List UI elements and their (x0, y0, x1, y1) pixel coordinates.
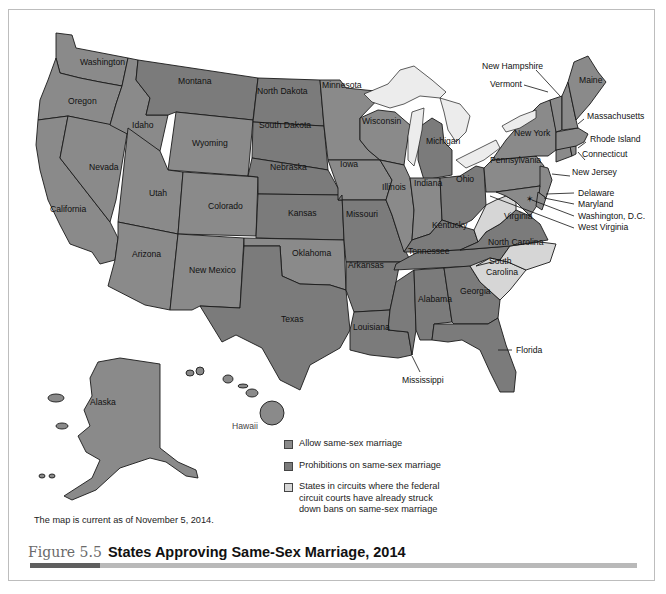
state-arizona (108, 222, 178, 310)
lake-superior (364, 66, 446, 108)
label-alabama: Alabama (418, 294, 452, 304)
state-florida (432, 318, 516, 392)
label-south-carolina-line1: South (489, 256, 512, 266)
swatch-prohibit-icon (284, 462, 293, 471)
alaska-island (39, 474, 45, 478)
label-connecticut: Connecticut (582, 149, 628, 159)
hawaii-island (260, 401, 284, 425)
legend-label-allow: Allow same-sex marriage (299, 438, 402, 450)
label-michigan: Michigan (426, 136, 461, 146)
state-alaska (64, 358, 198, 500)
leader-massachusetts (578, 119, 584, 124)
label-north-carolina: North Carolina (488, 237, 544, 247)
alaska-island (48, 394, 64, 402)
label-hawaii: Hawaii (232, 421, 258, 431)
legend-item-prohibit: Prohibitions on same-sex marriage (284, 460, 504, 472)
label-dc: Washington, D.C. (578, 211, 645, 221)
label-pennsylvania: Pennsylvania (490, 155, 541, 165)
label-new-york: New York (514, 128, 551, 138)
swatch-circuit-icon (284, 483, 293, 492)
label-south-dakota: South Dakota (259, 120, 311, 130)
state-massachusetts (556, 128, 588, 150)
label-alaska: Alaska (90, 397, 116, 407)
label-wyoming: Wyoming (192, 138, 228, 148)
leader-new-hampshire (536, 70, 560, 96)
label-new-mexico: New Mexico (189, 265, 236, 275)
label-colorado: Colorado (208, 201, 243, 211)
caption-rule-accent (30, 563, 100, 568)
label-louisiana: Louisiana (353, 322, 390, 332)
label-south-carolina-line2: Carolina (486, 267, 518, 277)
label-massachusetts: Massachusetts (587, 111, 644, 121)
label-indiana: Indiana (414, 178, 442, 188)
leader-vermont (524, 85, 548, 92)
label-kansas: Kansas (288, 208, 317, 218)
leader-delaware (546, 193, 574, 194)
label-idaho: Idaho (132, 120, 154, 130)
label-north-dakota: North Dakota (257, 86, 308, 96)
legend-item-allow: Allow same-sex marriage (284, 438, 504, 450)
figure-title: States Approving Same-Sex Marriage, 2014 (108, 544, 406, 560)
hawaii-island (246, 389, 258, 397)
label-kentucky: Kentucky (432, 220, 468, 230)
map-legend: Allow same-sex marriage Prohibitions on … (284, 438, 504, 526)
figure-caption: Figure 5.5States Approving Same-Sex Marr… (28, 544, 406, 560)
label-montana: Montana (178, 76, 212, 86)
legend-label-circuit: States in circuits where the federal cir… (299, 481, 454, 516)
label-ohio: Ohio (456, 174, 474, 184)
label-illinois: Illinois (382, 182, 406, 192)
label-vermont: Vermont (490, 79, 523, 89)
label-georgia: Georgia (460, 286, 491, 296)
label-missouri: Missouri (346, 209, 378, 219)
swatch-allow-icon (284, 440, 293, 449)
currency-note: The map is current as of November 5, 201… (34, 515, 214, 525)
label-oregon: Oregon (68, 96, 97, 106)
hawaii-island (196, 367, 204, 375)
label-virginia: Virginia (504, 211, 533, 221)
hawaii-island (186, 370, 194, 376)
label-rhode-island: Rhode Island (590, 134, 641, 144)
label-wisconsin: Wisconsin (362, 116, 401, 126)
label-nevada: Nevada (89, 162, 119, 172)
alaska-island (49, 474, 55, 478)
label-arizona: Arizona (132, 249, 161, 259)
leader-maryland (544, 198, 574, 204)
label-delaware: Delaware (578, 188, 615, 198)
label-texas: Texas (281, 314, 303, 324)
label-washington: Washington (80, 57, 125, 67)
label-new-jersey: New Jersey (572, 167, 618, 177)
label-west-virginia: West Virginia (578, 222, 629, 232)
hawaii-island (238, 384, 248, 388)
label-nebraska: Nebraska (270, 162, 307, 172)
dc-star-icon: ✶ (526, 194, 534, 204)
label-utah: Utah (149, 188, 167, 198)
label-florida: Florida (516, 345, 542, 355)
legend-item-circuit: States in circuits where the federal cir… (284, 481, 454, 516)
label-new-hampshire: New Hampshire (482, 61, 543, 71)
alaska-island (56, 423, 68, 429)
label-iowa: Iowa (340, 159, 358, 169)
label-oklahoma: Oklahoma (292, 248, 331, 258)
caption-rule (30, 563, 637, 568)
leader-mississippi (412, 356, 420, 372)
label-mississippi: Mississippi (402, 375, 444, 385)
legend-label-prohibit: Prohibitions on same-sex marriage (299, 460, 441, 472)
state-iowa (328, 160, 392, 200)
label-tennessee: Tennessee (408, 246, 450, 256)
state-michigan (418, 118, 452, 180)
label-arkansas: Arkansas (348, 260, 384, 270)
label-maryland: Maryland (578, 199, 614, 209)
leader-new-jersey (552, 174, 570, 176)
hawaii-island (223, 375, 233, 383)
label-minnesota: Minnesota (322, 80, 362, 90)
figure-number: Figure 5.5 (28, 544, 102, 560)
state-montana (136, 60, 258, 120)
label-maine: Maine (579, 75, 603, 85)
label-california: California (50, 204, 87, 214)
